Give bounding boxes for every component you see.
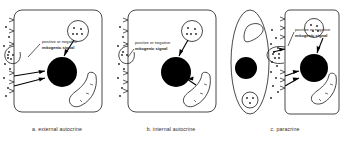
signal-label-line1: positive or negative [295,27,331,32]
membrane-receptors [280,17,285,90]
signal-label-line2: mitogenic signal [42,45,74,50]
signaling-modes-figure: positive or negative mitogenic signal a.… [0,0,342,150]
label-leader-line [288,32,294,46]
signal-label-line1: positive or negative [135,40,171,45]
signaling-cell-nucleus [235,57,257,79]
label-leader-line [128,49,134,57]
label-leader-line [28,44,40,57]
panel-paracrine: positive or negative mitogenic signal c.… [228,0,342,150]
signaling-cell-vesicle-contents [246,97,254,104]
secretory-vesicle [182,21,203,42]
signaling-cell-golgi [244,24,263,42]
panel-a-caption: a. external autocrine [0,126,114,132]
panel-b-caption: b. internal autocrine [114,126,228,132]
golgi-ticks [80,84,93,102]
signal-label-line2: mitogenic signal [295,33,327,38]
nucleus [300,54,328,82]
signal-label-line1: positive or negative [42,39,78,44]
golgi-ticks [319,84,333,101]
vesicle-contents [72,27,83,35]
panel-internal-autocrine: positive or negative mitogenic signal b.… [114,0,228,150]
golgi-ticks [194,84,207,102]
panel-external-autocrine: positive or negative mitogenic signal a.… [0,0,114,150]
signaling-cell-vesicle [242,92,258,108]
nucleus [47,57,77,87]
endosome-contents [122,51,128,56]
vesicle-contents [186,27,197,35]
nucleus [161,57,191,87]
panel-c-caption: c. paracrine [228,126,342,132]
signal-label-line2: mitogenic signal [135,46,167,51]
ligand-dots [270,29,280,99]
